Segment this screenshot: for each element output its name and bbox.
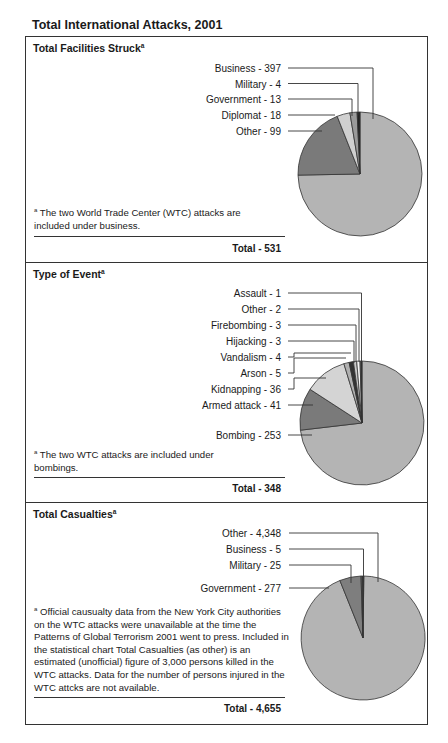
- leader-vandalism: [288, 353, 351, 357]
- page-title: Total International Attacks, 2001: [32, 18, 222, 32]
- leader-hijacking: [288, 341, 354, 363]
- leader-government: [288, 99, 352, 116]
- leader-business: [288, 68, 373, 119]
- section-total-casualties: Total Casualtiesa Other - 4,348 Business…: [26, 502, 427, 724]
- leader-firebombing: [288, 325, 356, 362]
- leader-other: [289, 533, 378, 582]
- leader-assault: [288, 293, 362, 362]
- section-type-of-event: Type of Eventa Assault - 1 Other - 2 Fir…: [26, 262, 427, 502]
- leader-other: [288, 309, 359, 362]
- pie-chart-casualties: [26, 503, 429, 725]
- pie-chart-facilities: [26, 37, 429, 262]
- pie-chart-type-of-event: [26, 263, 429, 503]
- charts-container: Total Facilities Strucka Business - 397 …: [25, 36, 428, 725]
- section-facilities-struck: Total Facilities Strucka Business - 397 …: [26, 37, 427, 262]
- leader-business: [289, 549, 364, 578]
